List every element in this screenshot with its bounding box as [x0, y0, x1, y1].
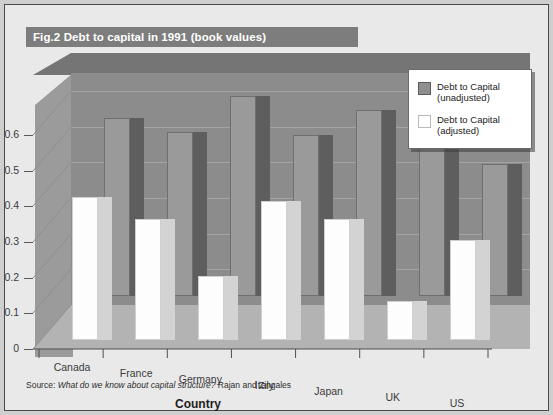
y-axis-label: 0.1: [0, 306, 19, 318]
bar-side-face: [193, 132, 207, 296]
legend-item-unadjusted: Debt to Capital (unadjusted): [418, 81, 500, 103]
bar-front-face: [230, 96, 256, 296]
source-work-title: What do we know about capital structure?: [58, 380, 216, 390]
chart-legend: Debt to Capital (unadjusted) Debt to Cap…: [408, 69, 532, 149]
y-axis-label: 0: [0, 342, 19, 354]
x-axis-label-us: US: [434, 397, 480, 409]
y-axis-tick: [24, 171, 33, 172]
y-axis-depth-line: [31, 89, 91, 149]
y-axis-label: 0.6: [0, 128, 19, 140]
source-authors: Rajan and Zingales: [218, 380, 291, 390]
y-axis-tick: [24, 242, 33, 243]
x-axis-label-canada: Canada: [49, 361, 95, 373]
y-axis-label: 0.2: [0, 271, 19, 283]
figure-frame: Fig.2 Debt to capital in 1991 (book valu…: [4, 4, 549, 411]
source-note: Source: What do we know about capital st…: [26, 380, 291, 390]
y-axis-tick: [24, 278, 33, 279]
x-axis-label-uk: UK: [370, 391, 416, 403]
y-axis-label: 0.5: [0, 164, 19, 176]
bar-side-face: [382, 110, 396, 296]
white-square-icon: [418, 115, 431, 128]
y-axis-tick: [24, 135, 33, 136]
page-title: Fig.2 Debt to capital in 1991 (book valu…: [26, 31, 266, 43]
source-prefix: Source:: [26, 380, 55, 390]
legend-label-unadjusted: Debt to Capital (unadjusted): [437, 81, 500, 103]
gray-square-icon: [418, 82, 431, 95]
x-axis-title: Country: [175, 397, 221, 411]
bar-side-face: [508, 164, 522, 296]
y-axis-label: 0.4: [0, 199, 19, 211]
y-axis-tick: [24, 206, 33, 207]
legend-label-adjusted: Debt to Capital (adjusted): [437, 114, 500, 136]
figure-title-bar: Fig.2 Debt to capital in 1991 (book valu…: [26, 27, 358, 47]
x-axis-label-france: France: [113, 367, 159, 379]
legend-item-adjusted: Debt to Capital (adjusted): [418, 114, 500, 136]
x-axis-label-japan: Japan: [306, 385, 352, 397]
x-axis-baseline: [25, 293, 530, 413]
y-axis-label: 0.3: [0, 235, 19, 247]
